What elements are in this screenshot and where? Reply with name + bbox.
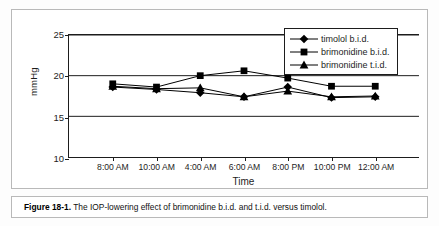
x-axis-tick-label: 10:00 AM bbox=[139, 163, 175, 172]
x-axis-tick-label: 4:00 AM bbox=[185, 163, 217, 172]
x-axis-tick-label: 8:00 PM bbox=[272, 163, 304, 172]
x-axis-tick-label: 8:00 AM bbox=[97, 163, 129, 172]
y-axis-tick-mark bbox=[65, 118, 69, 119]
chart-legend: timolol b.i.d.brimonidine b.i.d.brimonid… bbox=[284, 28, 398, 75]
x-axis-tick-mark bbox=[288, 157, 289, 161]
y-axis-tick-label: 15 bbox=[53, 113, 64, 123]
y-axis-tick-label: 25 bbox=[53, 30, 64, 40]
x-axis-tick-mark bbox=[157, 157, 158, 161]
figure-container: mmHg 10152025 8:00 AM10:00 AM4:00 AM6:00… bbox=[0, 0, 439, 226]
y-axis-tick-label: 20 bbox=[53, 72, 64, 82]
data-point-square bbox=[284, 75, 291, 82]
x-axis-tick-mark bbox=[113, 157, 114, 161]
data-point-square bbox=[301, 48, 308, 55]
x-axis-tick-mark bbox=[245, 157, 246, 161]
legend-label: brimonidine t.i.d. bbox=[321, 60, 387, 70]
legend-marker-triangle bbox=[289, 59, 319, 71]
x-axis-tick-mark bbox=[332, 157, 333, 161]
data-point-diamond bbox=[300, 34, 309, 43]
figure-caption: Figure 18-1. The IOP-lowering effect of … bbox=[12, 202, 327, 212]
legend-marker-square bbox=[289, 46, 319, 58]
y-axis-tick-mark bbox=[65, 76, 69, 77]
y-axis-tick-mark bbox=[65, 35, 69, 36]
figure-caption-label: Figure 18-1. bbox=[24, 202, 71, 212]
y-axis-tick-mark bbox=[65, 159, 69, 160]
x-axis-tick-mark bbox=[376, 157, 377, 161]
figure-caption-body: The IOP-lowering effect of brimonidine b… bbox=[73, 202, 327, 212]
data-point-square bbox=[197, 72, 204, 79]
legend-item-2: brimonidine t.i.d. bbox=[289, 58, 390, 71]
y-axis-tick-label: 10 bbox=[53, 154, 64, 164]
data-point-square bbox=[241, 67, 248, 74]
figure-caption-box: Figure 18-1. The IOP-lowering effect of … bbox=[11, 196, 428, 218]
x-axis-title: Time bbox=[68, 176, 419, 187]
legend-marker-diamond bbox=[289, 33, 319, 45]
legend-label: timolol b.i.d. bbox=[321, 34, 369, 44]
x-axis-tick-label: 10:00 PM bbox=[314, 163, 351, 172]
x-axis-tick-label: 12:00 AM bbox=[358, 163, 394, 172]
y-axis-title: mmHg bbox=[28, 67, 39, 96]
chart-frame: mmHg 10152025 8:00 AM10:00 AM4:00 AM6:00… bbox=[11, 9, 428, 189]
legend-item-1: brimonidine b.i.d. bbox=[289, 45, 390, 58]
legend-item-0: timolol b.i.d. bbox=[289, 32, 390, 45]
data-point-square bbox=[328, 83, 335, 90]
x-axis-tick-label: 6:00 AM bbox=[229, 163, 261, 172]
x-axis-tick-mark bbox=[201, 157, 202, 161]
legend-label: brimonidine b.i.d. bbox=[321, 47, 390, 57]
data-point-square bbox=[372, 83, 379, 90]
